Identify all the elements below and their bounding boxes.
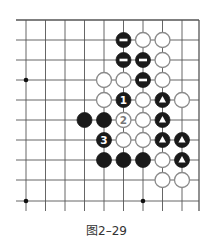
minus-mark-icon xyxy=(120,39,128,42)
white-stone xyxy=(155,33,170,48)
white-stone xyxy=(155,73,170,88)
figure-caption: 图2–29 xyxy=(0,221,213,238)
black-stone xyxy=(136,153,151,168)
white-stone xyxy=(155,153,170,168)
white-stone xyxy=(155,173,170,188)
move-number-label: 2 xyxy=(120,114,127,126)
minus-mark-icon xyxy=(139,79,147,82)
white-stone xyxy=(136,113,151,128)
black-stone xyxy=(97,153,112,168)
white-stone xyxy=(175,173,190,188)
white-stone xyxy=(116,133,131,148)
move-number-label: 1 xyxy=(120,94,127,106)
white-stone xyxy=(136,133,151,148)
white-stone xyxy=(155,53,170,68)
white-stone xyxy=(97,93,112,108)
minus-mark-icon xyxy=(120,59,128,62)
black-stone xyxy=(97,113,112,128)
black-stone xyxy=(77,113,92,128)
move-number-label: 3 xyxy=(100,134,107,146)
star-point xyxy=(141,199,146,204)
white-stone xyxy=(136,33,151,48)
star-point xyxy=(24,78,29,83)
minus-mark-icon xyxy=(139,59,147,62)
white-stone xyxy=(136,93,151,108)
black-stone xyxy=(116,153,131,168)
go-board: 123 xyxy=(0,0,213,243)
white-stone xyxy=(175,93,190,108)
white-stone xyxy=(116,73,131,88)
star-point xyxy=(24,199,29,204)
white-stone xyxy=(97,73,112,88)
